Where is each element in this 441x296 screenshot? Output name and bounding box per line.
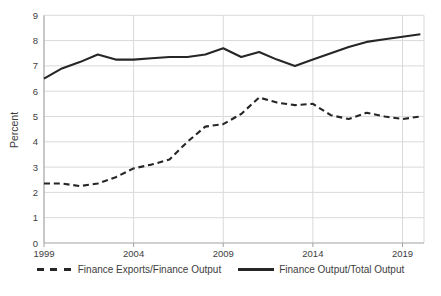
- y-tick-label: 1: [33, 212, 38, 223]
- legend-label-finance-exports: Finance Exports/Finance Output: [78, 264, 221, 275]
- x-tick-label: 2009: [213, 248, 234, 259]
- y-tick-label: 0: [33, 238, 38, 249]
- finance-line-chart: 199920042009201420190123456789 Percent F…: [0, 0, 441, 296]
- legend-item-finance-output: Finance Output/Total Output: [238, 264, 404, 275]
- y-tick-label: 2: [33, 187, 38, 198]
- legend-label-finance-output: Finance Output/Total Output: [279, 264, 404, 275]
- x-tick-label: 2014: [302, 248, 323, 259]
- y-axis-title: Percent: [8, 112, 20, 148]
- legend: Finance Exports/Finance Output Finance O…: [0, 264, 441, 275]
- y-tick-label: 4: [33, 136, 38, 147]
- x-tick-label: 2019: [392, 248, 413, 259]
- x-tick-label: 2004: [123, 248, 144, 259]
- y-tick-label: 8: [33, 35, 38, 46]
- y-tick-label: 7: [33, 60, 38, 71]
- legend-item-finance-exports: Finance Exports/Finance Output: [37, 264, 221, 275]
- y-tick-label: 6: [33, 86, 38, 97]
- x-tick-label: 1999: [33, 248, 54, 259]
- plot-svg: 199920042009201420190123456789: [0, 0, 441, 296]
- dashed-line-sample-icon: [37, 268, 73, 270]
- y-tick-label: 9: [33, 10, 38, 21]
- y-tick-label: 3: [33, 162, 38, 173]
- solid-line-sample-icon: [238, 268, 274, 270]
- y-tick-label: 5: [33, 111, 38, 122]
